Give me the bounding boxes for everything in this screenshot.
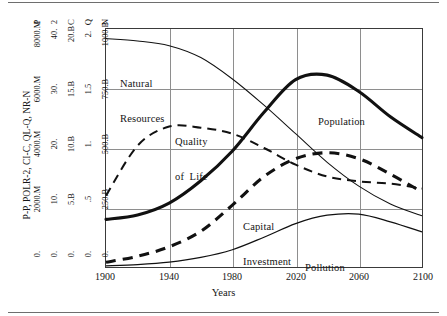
y-tick-label-2: 20. [50, 139, 59, 149]
y-tick-label-Q: 1.5 [84, 84, 93, 94]
x-tick-label: 2100 [403, 271, 443, 282]
y-tick-label-P: 2000.M [33, 186, 42, 212]
y-scale-head-C: C [66, 19, 76, 25]
y-tick-label-2: 0. [50, 251, 59, 257]
y-scale-head-2: 2 [49, 20, 59, 24]
x-tick-label: 1940 [149, 271, 189, 282]
y-tick-label-Q: 1. [84, 141, 93, 147]
y-scale-column-P [32, 0, 47, 316]
annotation-quality-of-life: Quality of Life [175, 113, 208, 205]
y-tick-label-N: 750.B [101, 79, 110, 99]
x-tick-label: 2060 [339, 271, 379, 282]
annotation-line-1: Capital [243, 221, 291, 233]
y-tick-label-N: 0. [101, 251, 110, 257]
annotation-line-1: Natural [120, 78, 165, 90]
y-tick-label-N: 250.B [101, 189, 110, 209]
annotation-line-2: of Life [175, 171, 208, 183]
y-tick-label-Q: 0. [84, 251, 93, 257]
y-scale-head-Q: Q [83, 19, 93, 25]
y-tick-label-N: 500.B [101, 134, 110, 154]
y-tick-label-C: 0. [67, 251, 76, 257]
y-tick-label-P: 4000.M [33, 131, 42, 157]
x-axis-title: Years [0, 287, 447, 298]
y-tick-label-C: 5.B [67, 193, 76, 205]
x-tick-label: 2020 [276, 271, 316, 282]
y-tick-label-C: 20.B [67, 26, 76, 42]
y-tick-label-C: 15.B [67, 81, 76, 97]
x-tick-label: 1900 [85, 271, 125, 282]
y-tick-label-N: 1000.B [101, 22, 110, 46]
x-tick-label: 1980 [212, 271, 252, 282]
y-tick-label-Q: 2. [84, 31, 93, 37]
y-scale-column-2 [49, 0, 64, 316]
annotation-natural-resources: Natural Resources [120, 55, 165, 147]
annotation-line-1: Population [318, 116, 365, 128]
y-axis-title: P-P, POLR-2, CI-C, QL-Q, NR-N [22, 65, 32, 245]
y-tick-label-2: 40. [50, 29, 59, 39]
annotation-line-1: Quality [175, 136, 208, 148]
y-scale-column-Q [0, 0, 15, 316]
y-tick-label-C: 10.B [67, 136, 76, 152]
y-tick-label-P: 6000.M [33, 76, 42, 102]
y-tick-label-P: 0. [33, 251, 42, 257]
annotation-line-2: Resources [120, 113, 165, 125]
y-tick-label-P: 8000.M [33, 21, 42, 47]
y-scale-column-C [66, 0, 81, 316]
y-tick-label-2: 30. [50, 84, 59, 94]
annotation-population: Population [318, 93, 365, 151]
y-tick-label-Q: .5 [84, 196, 93, 202]
annotation-line-2: Investment [243, 256, 291, 268]
figure: P-P, POLR-2, CI-C, QL-Q, NR-N Natura [0, 0, 447, 316]
y-tick-label-2: 10. [50, 194, 59, 204]
